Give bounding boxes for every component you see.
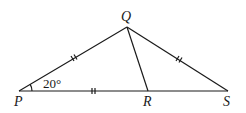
angle-arc-p (30, 84, 32, 91)
label-q: Q (121, 9, 131, 24)
triangle-diagram: Q P R S 20° (0, 0, 246, 113)
label-r: R (142, 94, 152, 109)
angle-label-p: 20° (43, 76, 61, 91)
label-s: S (223, 94, 230, 109)
segment-qr (127, 27, 148, 91)
label-p: P (13, 94, 23, 109)
